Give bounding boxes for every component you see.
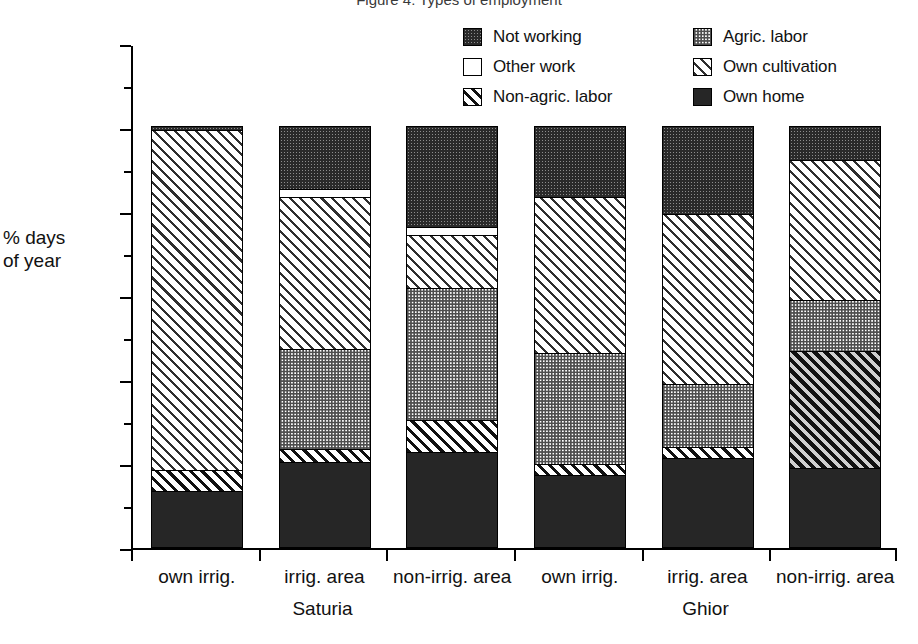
bar-segment-non-agric-labor[interactable]	[152, 471, 242, 492]
bar-ghior-own-irrig[interactable]	[534, 126, 626, 548]
bar-segment-not-working[interactable]	[790, 127, 880, 161]
x-axis-label-3: own irrig.	[516, 566, 644, 588]
group-label-ghior: Ghior	[514, 598, 897, 620]
bar-segment-non-agric-labor[interactable]	[407, 421, 497, 453]
x-axis-label-5: non-irrig. area	[771, 566, 899, 588]
bar-segment-not-working[interactable]	[535, 127, 625, 198]
y-tick-major-60	[120, 297, 131, 299]
bar-segment-own-cultivation[interactable]	[535, 198, 625, 353]
x-tick-2	[386, 550, 388, 561]
x-axis-label-1: irrig. area	[261, 566, 389, 588]
x-tick-5	[769, 550, 771, 561]
y-axis-title-line2: of year	[3, 249, 65, 272]
x-tick-4	[642, 550, 644, 561]
bar-segment-own-cultivation[interactable]	[407, 236, 497, 289]
legend-label: Agric. labor	[723, 27, 808, 47]
y-tick-major-80	[120, 213, 131, 215]
y-tick-major-120	[120, 45, 131, 47]
bar-segment-agric-labor[interactable]	[790, 301, 880, 351]
bar-segment-agric-labor[interactable]	[535, 354, 625, 465]
bar-segment-own-home[interactable]	[535, 476, 625, 547]
bar-segment-agric-labor[interactable]	[280, 350, 370, 451]
bar-segment-non-agric-labor-dark[interactable]	[790, 352, 880, 470]
bar-saturia-irrig-area[interactable]	[279, 126, 371, 548]
bar-segment-agric-labor[interactable]	[663, 385, 753, 448]
x-tick-end	[895, 550, 897, 561]
y-tick-major-20	[120, 465, 131, 467]
legend-swatch-agric-labor-icon	[693, 28, 712, 46]
bar-segment-non-agric-labor[interactable]	[280, 450, 370, 463]
legend-item-agric-labor: Agric. labor	[693, 27, 893, 47]
bar-saturia-non-irrig-area[interactable]	[406, 126, 498, 548]
y-axis-title: % days of year	[3, 226, 65, 272]
bar-segment-non-agric-labor[interactable]	[663, 448, 753, 459]
y-tick-minor-10	[124, 507, 131, 509]
x-tick-3	[514, 550, 516, 561]
bar-segment-not-working[interactable]	[663, 127, 753, 215]
y-axis-line	[131, 46, 133, 550]
bar-segment-own-cultivation[interactable]	[152, 131, 242, 471]
y-tick-minor-70	[124, 255, 131, 257]
bar-segment-other-work[interactable]	[280, 190, 370, 198]
x-tick-0	[131, 550, 133, 561]
y-tick-minor-50	[124, 339, 131, 341]
x-axis-label-4: irrig. area	[644, 566, 772, 588]
bar-ghior-non-irrig-area[interactable]	[789, 126, 881, 548]
bar-segment-own-home[interactable]	[152, 492, 242, 547]
y-axis-title-line1: % days	[3, 226, 65, 249]
bar-segment-not-working[interactable]	[280, 127, 370, 190]
bar-segment-own-home[interactable]	[280, 463, 370, 547]
y-tick-minor-110	[124, 87, 131, 89]
bar-saturia-own-irrig[interactable]	[151, 126, 243, 548]
chart-title: Figure 4: Types of employment	[0, 0, 918, 8]
bar-segment-not-working[interactable]	[407, 127, 497, 228]
bar-segment-agric-labor[interactable]	[407, 289, 497, 421]
y-tick-major-40	[120, 381, 131, 383]
y-tick-major-0	[120, 549, 131, 551]
bar-segment-own-cultivation[interactable]	[280, 198, 370, 349]
bar-segment-non-agric-labor[interactable]	[535, 465, 625, 476]
group-label-saturia: Saturia	[131, 598, 514, 620]
y-tick-minor-30	[124, 423, 131, 425]
bar-segment-own-home[interactable]	[407, 453, 497, 548]
legend-item-not-working: Not working	[463, 27, 693, 47]
x-tick-1	[259, 550, 261, 561]
plot-area: 020406080100120 own irrig.irrig. areanon…	[131, 46, 897, 550]
bar-segment-own-cultivation[interactable]	[663, 215, 753, 385]
bar-ghior-irrig-area[interactable]	[662, 126, 754, 548]
bar-segment-own-home[interactable]	[790, 469, 880, 547]
x-axis-label-0: own irrig.	[133, 566, 261, 588]
y-tick-minor-90	[124, 171, 131, 173]
legend-label: Not working	[493, 27, 582, 47]
bar-segment-other-work[interactable]	[407, 228, 497, 236]
bar-segment-own-cultivation[interactable]	[790, 161, 880, 302]
y-tick-major-100	[120, 129, 131, 131]
bar-segment-own-home[interactable]	[663, 459, 753, 547]
x-axis-label-2: non-irrig. area	[388, 566, 516, 588]
legend-swatch-not-working-icon	[463, 28, 482, 46]
